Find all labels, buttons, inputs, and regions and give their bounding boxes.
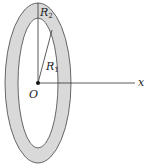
axis-label: x — [138, 76, 145, 89]
outer-radius-label: R2 — [39, 6, 53, 20]
origin-point — [36, 81, 40, 85]
annulus-diagram: R2 R1 O x — [0, 0, 148, 166]
origin-label: O — [29, 88, 38, 101]
